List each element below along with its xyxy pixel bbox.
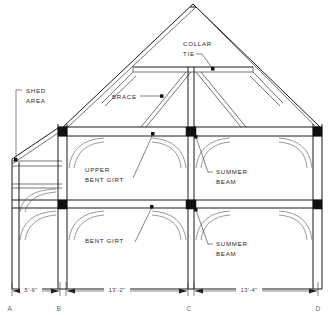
joint-d-mid — [313, 200, 322, 209]
dimension-a-b: 5'-6" — [13, 285, 59, 293]
dimension-c-d-text: 13'-4" — [241, 287, 258, 293]
post-a — [12, 159, 19, 289]
grid-label-row: A B C D — [8, 305, 321, 312]
collar-tie-member — [133, 67, 253, 72]
roof-rafters-group — [63, 4, 320, 127]
joint-c-mid — [186, 200, 196, 209]
annotation-upper-bent-girt: UPPER BENT GIRT — [85, 132, 155, 183]
king-post — [188, 67, 194, 128]
annotation-summer-beam-upper: SUMMER BEAM — [194, 135, 248, 185]
joint-c-top — [186, 127, 196, 136]
joint-d-top — [313, 127, 322, 136]
shed-roof — [12, 128, 58, 164]
bent-girt-label: BENT GIRT — [85, 237, 124, 244]
dimension-b-c-text: 13'-2" — [109, 287, 126, 293]
upper-bent-girt-label-line1: UPPER — [85, 166, 110, 173]
grid-label-c: C — [186, 305, 191, 312]
shed-area-label-line1: SHED — [26, 87, 46, 94]
annotation-collar-tie: COLLAR TIE — [183, 40, 215, 71]
collar-tie-label-line2: TIE — [183, 50, 195, 57]
architectural-drawing-canvas: SHED AREA COLLAR TIE BRACE UPPER BENT GI… — [0, 0, 329, 315]
knee-brace-group-lower — [20, 211, 312, 240]
summer-beam-upper-label-line1: SUMMER — [216, 168, 248, 175]
annotation-brace: BRACE — [112, 93, 164, 100]
annotation-bent-girt: BENT GIRT — [85, 205, 154, 244]
brace-label: BRACE — [112, 93, 137, 100]
grid-label-a: A — [8, 305, 13, 312]
summer-beam-lower-label-line2: BEAM — [216, 250, 236, 257]
grid-label-b: B — [57, 305, 62, 312]
collar-tie-label-line1: COLLAR — [183, 40, 212, 47]
joint-b-top — [58, 127, 67, 136]
dimension-a-b-text: 5'-6" — [24, 287, 37, 293]
annotation-shed-area: SHED AREA — [14, 87, 46, 162]
bent-elevation-svg: SHED AREA COLLAR TIE BRACE UPPER BENT GI… — [0, 0, 329, 315]
summer-beam-upper-label-line2: BEAM — [216, 178, 236, 185]
grid-label-d: D — [315, 305, 320, 312]
joint-b-mid — [58, 200, 67, 209]
annotation-summer-beam-lower: SUMMER BEAM — [194, 208, 248, 257]
summer-beam-lower-label-line1: SUMMER — [216, 240, 248, 247]
knee-brace-group-upper — [69, 138, 312, 168]
upper-bent-girt-label-line2: BENT GIRT — [85, 176, 124, 183]
shed-area-label-line2: AREA — [26, 97, 46, 104]
